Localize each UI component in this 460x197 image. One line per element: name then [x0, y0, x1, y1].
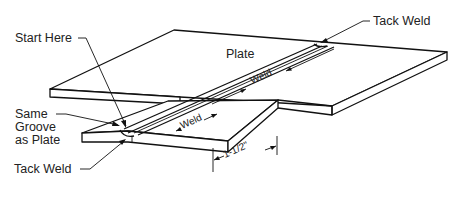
plate-label: Plate — [226, 47, 255, 61]
same-groove-line1: Same — [15, 107, 48, 121]
start-here-label: Start Here — [15, 31, 72, 45]
tack-weld-bottom-label: Tack Weld — [14, 162, 71, 176]
tack-weld-top-callout: Tack Weld — [320, 14, 430, 43]
same-groove-line3: as Plate — [15, 133, 60, 147]
same-groove-line2: Groove — [15, 120, 56, 134]
weld-plate-diagram: Weld Weld 1-1/2" Plate Start Here Tack W… — [0, 0, 460, 197]
tack-weld-top-label: Tack Weld — [373, 14, 430, 28]
